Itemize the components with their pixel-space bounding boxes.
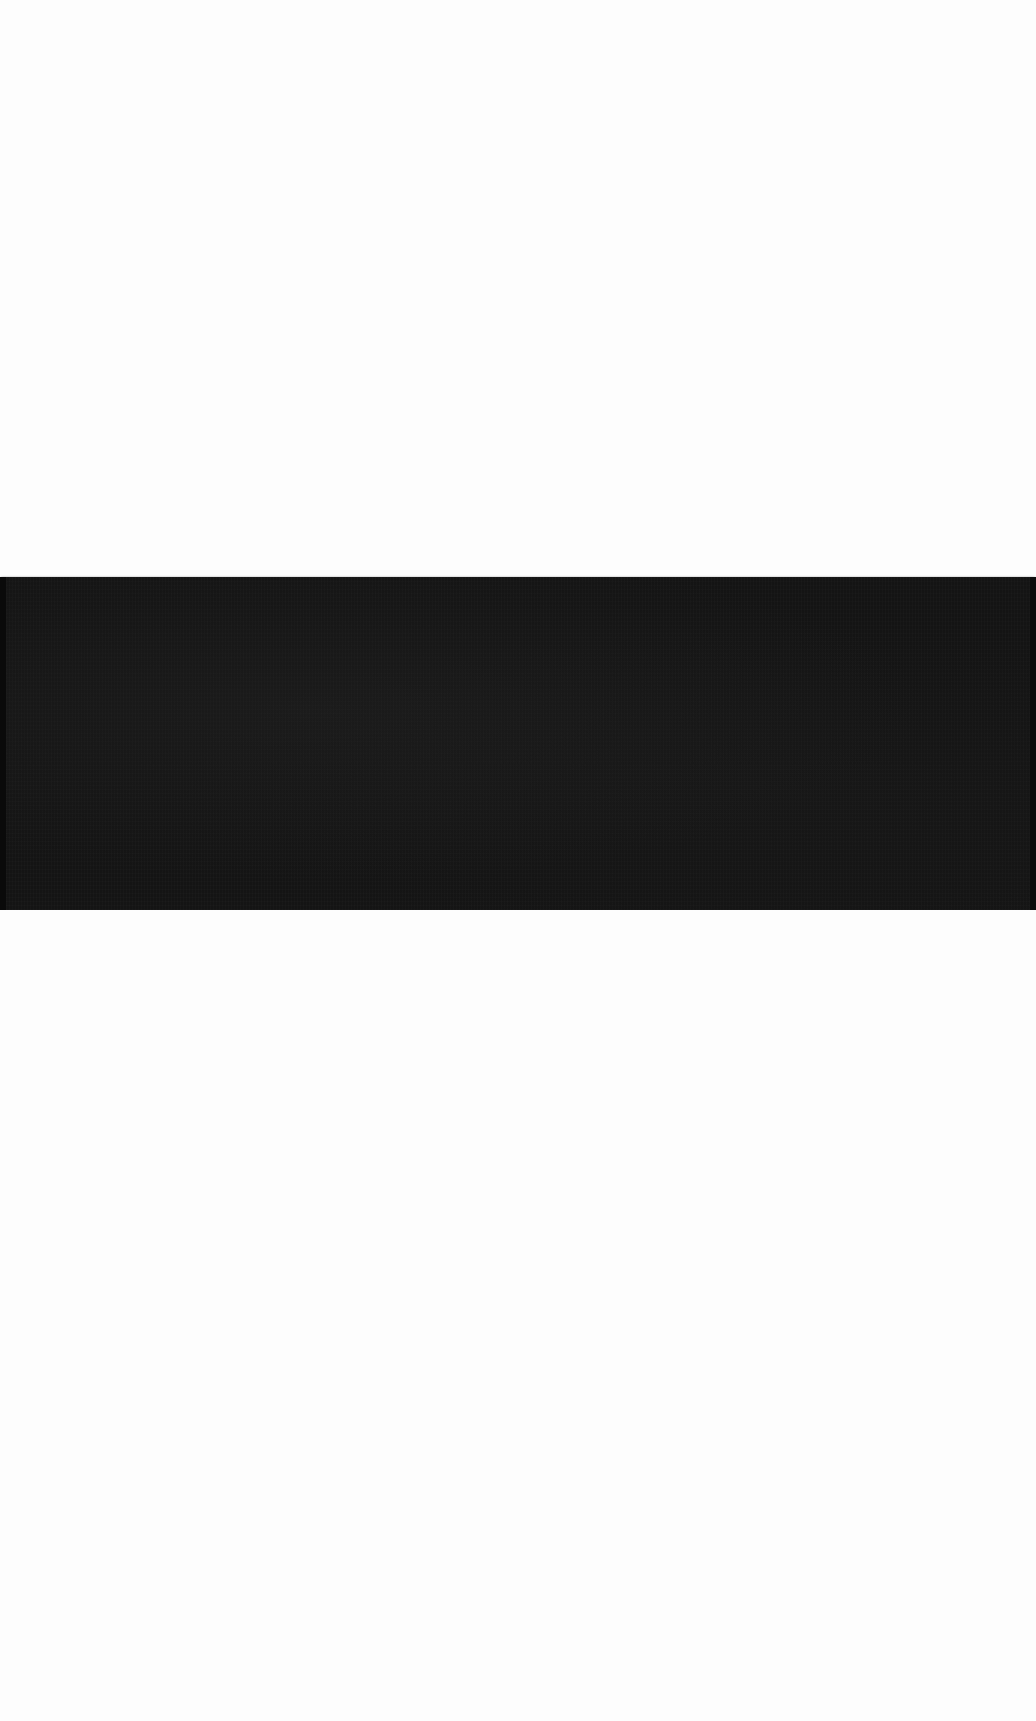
white-area-bottom <box>0 910 1036 1721</box>
page-canvas: White page with a single dark horizontal… <box>0 0 1036 1721</box>
dark-horizontal-band <box>0 577 1036 910</box>
band-left-edge <box>0 577 6 910</box>
band-right-edge <box>1030 577 1036 910</box>
white-area-top <box>0 0 1036 577</box>
